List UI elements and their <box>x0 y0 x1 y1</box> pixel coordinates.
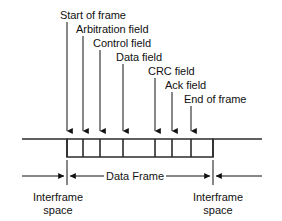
interframe-space-left-line1: Interframe <box>12 191 104 204</box>
interframe-space-left-line2: space <box>12 204 104 217</box>
diagram-canvas: Start of frame Arbitration field Control… <box>0 0 282 221</box>
dimension-label-interframe-space-left: Interframe space <box>12 191 104 216</box>
dimension-label-interframe-space-right: Interframe space <box>172 191 264 216</box>
waveform-envelope <box>22 139 262 157</box>
field-label-end-of-frame: End of frame <box>184 94 246 105</box>
field-label-data-field: Data field <box>116 52 162 63</box>
field-label-start-of-frame: Start of frame <box>60 10 126 21</box>
field-label-ack-field: Ack field <box>165 80 206 91</box>
interframe-space-right-line1: Interframe <box>172 191 264 204</box>
field-label-crc-field: CRC field <box>148 66 195 77</box>
field-label-arbitration-field: Arbitration field <box>76 24 149 35</box>
waveform-group <box>22 139 262 157</box>
dimension-label-data-frame: Data Frame <box>104 170 166 182</box>
interframe-space-right-line2: space <box>172 204 264 217</box>
field-label-control-field: Control field <box>93 38 151 49</box>
